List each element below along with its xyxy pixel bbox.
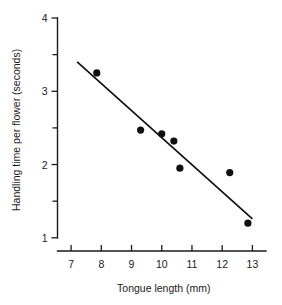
trend-line (77, 62, 252, 219)
y-tick-label: 4 (42, 12, 48, 24)
x-tick-label: 8 (98, 258, 104, 270)
y-tick-label: 2 (42, 159, 48, 171)
x-tick-label: 9 (129, 258, 135, 270)
y-axis-title: Handling time per flower (seconds) (10, 49, 22, 211)
x-tick-label: 7 (68, 258, 74, 270)
data-point (226, 169, 233, 176)
scatter-plot-figure: 1234 78910111213 Tongue length (mm)Handl… (0, 0, 282, 305)
y-axis: 1234 (42, 12, 58, 244)
x-axis-title: Tongue length (mm) (117, 282, 210, 294)
x-tick-label: 12 (216, 258, 228, 270)
x-tick-label: 13 (247, 258, 259, 270)
data-point (170, 137, 177, 144)
data-point (158, 130, 165, 137)
data-point (137, 127, 144, 134)
regression-line (77, 62, 252, 219)
data-point (93, 69, 100, 76)
x-axis: 78910111213 (58, 245, 267, 270)
y-tick-label: 3 (42, 85, 48, 97)
data-point (176, 165, 183, 172)
x-tick-label: 10 (156, 258, 168, 270)
x-tick-label: 11 (187, 258, 198, 270)
chart-canvas: 1234 78910111213 Tongue length (mm)Handl… (0, 0, 282, 305)
data-point (244, 220, 251, 227)
y-tick-label: 1 (42, 232, 48, 244)
